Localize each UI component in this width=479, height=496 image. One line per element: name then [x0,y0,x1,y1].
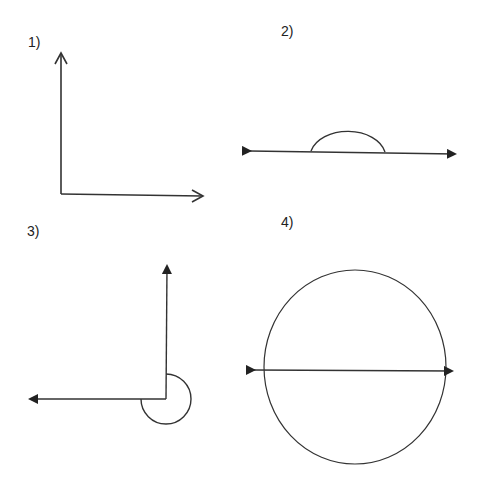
figure-1-right-angle [55,53,203,202]
figure-2-straight-angle [250,131,455,154]
figure-4-full-rotation [254,270,452,464]
figure-3-reflex-angle [30,266,191,424]
